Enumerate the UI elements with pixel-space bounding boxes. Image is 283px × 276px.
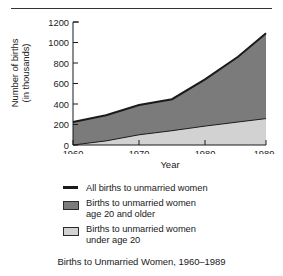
legend-label-age-20-and-older-line2: age 20 and older bbox=[86, 209, 196, 221]
legend-label-under-age-20-line2: under age 20 bbox=[86, 235, 196, 247]
legend-label-under-age-20-line1: Births to unmarried women bbox=[86, 224, 196, 236]
y-tick-label-1200: 1200 bbox=[48, 18, 69, 28]
x-axis-title: Year bbox=[73, 159, 267, 170]
legend-item-age-20-and-older: Births to unmarried women age 20 and old… bbox=[0, 198, 283, 221]
x-axis-tick-labels: 1960 1970 1980 1989 bbox=[63, 149, 275, 154]
y-tick-label-800: 800 bbox=[53, 59, 69, 69]
x-tick-label-1989: 1989 bbox=[254, 149, 275, 154]
legend-item-under-age-20: Births to unmarried women under age 20 bbox=[0, 224, 283, 247]
legend-label-age-20-and-older-line1: Births to unmarried women bbox=[86, 198, 196, 210]
dark-square-swatch-icon bbox=[63, 201, 79, 210]
legend-line-swatch-wrap bbox=[62, 183, 86, 189]
light-square-swatch-icon bbox=[63, 227, 79, 236]
x-tick-label-1980: 1980 bbox=[195, 149, 216, 154]
figure-caption: Births to Unmarried Women, 1960–1989 bbox=[0, 256, 283, 267]
legend-dark-swatch-wrap bbox=[62, 198, 86, 210]
y-tick-label-600: 600 bbox=[53, 79, 69, 89]
x-tick-label-1970: 1970 bbox=[129, 149, 150, 154]
top-divider-rule bbox=[11, 8, 272, 9]
legend-label-all-births-line1: All births to unmarried women bbox=[86, 183, 208, 195]
area-chart: Number of births (in thousands) bbox=[0, 14, 283, 176]
x-tick-label-1960: 1960 bbox=[63, 149, 84, 154]
legend-light-swatch-wrap bbox=[62, 224, 86, 236]
legend-item-all-births: All births to unmarried women bbox=[0, 183, 283, 195]
y-tick-label-1000: 1000 bbox=[48, 38, 69, 48]
figure-container: Number of births (in thousands) bbox=[0, 0, 283, 276]
legend-label-age-20-and-older: Births to unmarried women age 20 and old… bbox=[86, 198, 196, 221]
legend-label-under-age-20: Births to unmarried women under age 20 bbox=[86, 224, 196, 247]
line-swatch-icon bbox=[63, 186, 78, 189]
chart-plot-svg: 1200 1000 800 600 400 200 0 1960 1970 19… bbox=[0, 14, 283, 154]
y-axis-tick-labels: 1200 1000 800 600 400 200 0 bbox=[48, 18, 69, 151]
y-tick-label-400: 400 bbox=[53, 100, 69, 110]
y-tick-label-200: 200 bbox=[53, 120, 69, 130]
legend-label-all-births: All births to unmarried women bbox=[86, 183, 208, 195]
chart-legend: All births to unmarried women Births to … bbox=[0, 183, 283, 250]
